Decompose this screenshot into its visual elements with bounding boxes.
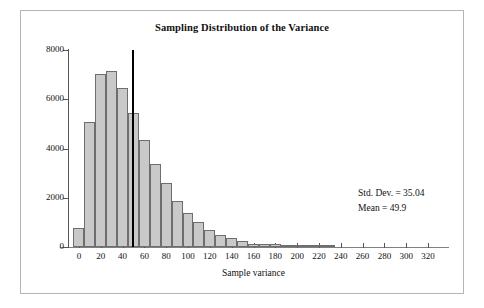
histogram-bar [281,245,292,247]
std-dev-annotation: Std. Dev. = 35.04 [358,186,425,201]
histogram-bar [193,222,204,247]
x-axis-line [60,247,449,248]
histogram-bar [161,183,172,247]
mean-annotation: Mean = 49.9 [358,201,425,216]
histogram-bar [84,122,95,247]
figure-root: Sampling Distribution of the Variance 02… [0,0,484,308]
x-tick-label: 320 [408,251,448,261]
histogram-bar [150,164,161,247]
y-tick-label: 0 [20,242,64,251]
histogram-bar [172,201,183,247]
histogram-bar [303,245,314,247]
chart-title: Sampling Distribution of the Variance [0,22,484,33]
histogram-bar [314,245,325,247]
histogram-bars [68,50,439,247]
histogram-bar [270,244,281,247]
histogram-bar [183,213,194,247]
histogram-bar [73,228,84,247]
histogram-bar [324,245,335,247]
histogram-bar [139,140,150,247]
y-tick-label: 4000 [20,144,64,153]
histogram-bar [204,230,215,247]
statistics-annotation: Std. Dev. = 35.04 Mean = 49.9 [358,186,425,216]
histogram-bar [106,71,117,247]
mean-reference-line [132,50,134,247]
y-tick-label: 8000 [20,45,64,54]
histogram-bar [95,74,106,247]
y-tick-label: 2000 [20,193,64,202]
y-tick-label: 6000 [20,94,64,103]
histogram-bar [237,241,248,247]
histogram-bar [215,235,226,247]
histogram-bar [117,88,128,247]
histogram-bar [226,238,237,247]
histogram-bar [248,244,259,247]
plot-area [68,50,439,247]
histogram-bar [259,244,270,247]
x-axis-label: Sample variance [68,268,439,278]
histogram-bar [292,245,303,247]
